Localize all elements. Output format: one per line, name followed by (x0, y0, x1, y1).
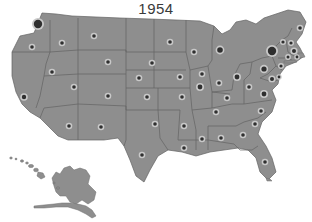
marker-id[interactable] (59, 40, 66, 47)
marker-mt[interactable] (91, 33, 98, 40)
marker-fl[interactable] (262, 159, 269, 166)
marker-nd[interactable] (167, 39, 174, 46)
aleutian-islands (34, 203, 96, 218)
marker-ga[interactable] (240, 132, 247, 139)
marker-mi[interactable] (216, 46, 225, 55)
marker-mn[interactable] (191, 49, 198, 56)
marker-vt[interactable] (280, 39, 286, 45)
marker-ia[interactable] (177, 74, 184, 81)
marker-ny[interactable] (266, 45, 278, 57)
marker-in[interactable] (216, 80, 223, 87)
marker-ks[interactable] (144, 94, 151, 101)
marker-tx[interactable] (139, 152, 146, 159)
marker-me[interactable] (297, 25, 304, 32)
kodiak-island (56, 187, 59, 189)
marker-wi[interactable] (199, 71, 206, 78)
alaska-inset (52, 166, 96, 204)
marker-nj[interactable] (278, 63, 284, 69)
marker-ct[interactable] (285, 54, 291, 60)
marker-ne[interactable] (136, 75, 143, 82)
marker-nc[interactable] (258, 108, 265, 115)
marker-co[interactable] (105, 93, 112, 100)
marker-md[interactable] (268, 75, 275, 82)
marker-tn[interactable] (213, 109, 220, 116)
us-dot-map-figure: 1954 (0, 0, 312, 222)
marker-va[interactable] (260, 90, 268, 98)
marker-ok[interactable] (152, 121, 159, 128)
marker-oh[interactable] (233, 73, 241, 81)
marker-ca[interactable] (20, 93, 28, 101)
marker-az[interactable] (66, 123, 73, 130)
marker-il[interactable] (196, 83, 204, 91)
hawaii-inset (10, 157, 45, 179)
marker-ut[interactable] (71, 84, 78, 91)
marker-sd[interactable] (149, 60, 156, 67)
marker-sc[interactable] (252, 121, 259, 128)
marker-al[interactable] (218, 135, 225, 142)
alaska-island-small (53, 182, 55, 184)
marker-ar[interactable] (181, 123, 188, 130)
us-map-canvas (0, 0, 312, 222)
marker-ma[interactable] (290, 47, 297, 54)
marker-ky[interactable] (224, 95, 231, 102)
marker-nh[interactable] (288, 40, 294, 46)
marker-nv[interactable] (49, 69, 56, 76)
marker-wy[interactable] (105, 59, 112, 66)
marker-la[interactable] (181, 145, 188, 152)
marker-mo[interactable] (179, 94, 186, 101)
marker-or[interactable] (29, 44, 36, 51)
marker-wa[interactable] (32, 18, 44, 30)
marker-de[interactable] (276, 74, 281, 79)
marker-ms[interactable] (199, 136, 206, 143)
marker-ri[interactable] (294, 54, 299, 59)
marker-wv[interactable] (246, 84, 253, 91)
marker-nm[interactable] (98, 124, 105, 131)
marker-pa[interactable] (260, 65, 268, 73)
